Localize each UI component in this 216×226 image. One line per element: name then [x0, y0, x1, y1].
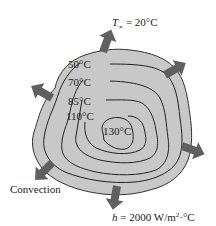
h-unit-tail: ·°C [179, 211, 194, 223]
isotherm-label-70: 70°C [68, 76, 91, 88]
isotherm-label-130: 130°C [103, 125, 131, 137]
isotherm-label-110: 110°C [66, 110, 94, 122]
heat-conduction-diagram: 50°C 70°C 85°C 110°C 130°C T∞ = 20°C Con… [0, 0, 216, 226]
isotherm-label-50: 50°C [68, 58, 91, 70]
convection-label: Convection [10, 183, 61, 195]
ambient-temperature-label: T∞ = 20°C [112, 16, 158, 31]
ambient-value: = 20°C [123, 16, 157, 28]
h-value: = 2000 W/m [118, 211, 177, 223]
isotherm-label-85: 85°C [68, 95, 91, 107]
heat-transfer-coefficient-label: h = 2000 W/m2·°C [112, 211, 195, 223]
